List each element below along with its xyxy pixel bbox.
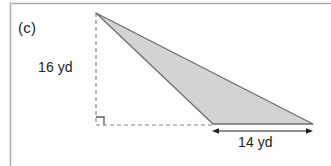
geometry-figure bbox=[0, 0, 331, 166]
part-label: (c) bbox=[18, 20, 36, 35]
right-angle-marker bbox=[96, 117, 104, 125]
height-dimension-label: 16 yd bbox=[38, 60, 73, 74]
base-dimension-arrow-right bbox=[306, 128, 313, 134]
triangle-shape bbox=[96, 13, 313, 124]
figure-panel: (c) 16 yd 14 yd bbox=[0, 0, 331, 166]
base-dimension-arrow-left bbox=[212, 128, 219, 134]
base-dimension-label: 14 yd bbox=[238, 135, 273, 149]
